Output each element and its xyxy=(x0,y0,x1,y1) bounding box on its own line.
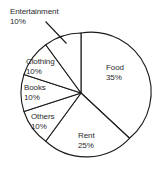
slice-label-food-pct: 35% xyxy=(106,73,124,83)
slice-label-books: Books 10% xyxy=(24,83,46,102)
slice-label-others: Others 10% xyxy=(31,112,54,131)
slice-label-rent-pct: 25% xyxy=(78,141,95,151)
slice-label-entertainment-pct: 10% xyxy=(10,17,59,27)
slice-label-books-name: Books xyxy=(24,83,46,92)
slice-label-rent-name: Rent xyxy=(78,131,95,140)
slice-label-others-pct: 10% xyxy=(31,122,54,132)
slice-label-clothing: Clothing 10% xyxy=(26,57,55,76)
pie-chart-figure: Entertainment 10% Clothing 10% Books 10%… xyxy=(0,0,164,172)
slice-label-food-name: Food xyxy=(106,63,124,72)
slice-label-others-name: Others xyxy=(31,112,54,121)
slice-label-entertainment-name: Entertainment xyxy=(10,7,59,16)
slice-label-books-pct: 10% xyxy=(24,93,46,103)
slice-label-entertainment: Entertainment 10% xyxy=(10,7,59,26)
slice-label-food: Food 35% xyxy=(106,63,124,82)
slice-label-rent: Rent 25% xyxy=(78,131,95,150)
slice-label-clothing-pct: 10% xyxy=(26,67,55,77)
slice-label-clothing-name: Clothing xyxy=(26,57,55,66)
